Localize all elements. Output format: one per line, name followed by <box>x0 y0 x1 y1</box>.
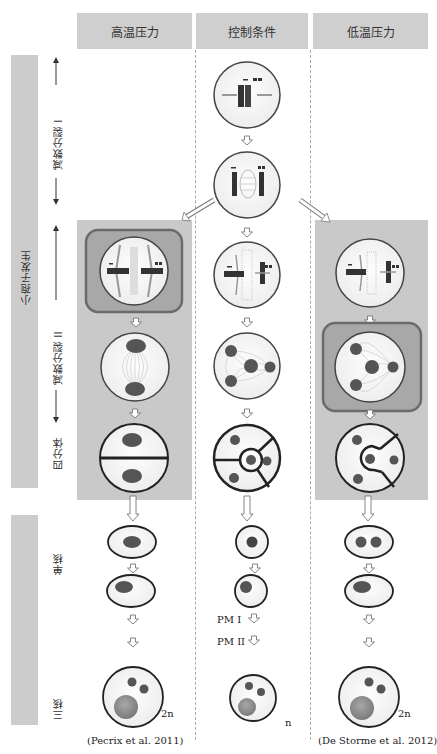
arrow-icon <box>130 409 141 418</box>
arrow-icon <box>249 636 260 645</box>
heat-ploidy-label: 2n <box>161 708 174 719</box>
control-ploidy-label: n <box>285 717 291 728</box>
cold-citation: (De Storme et al. 2012) <box>318 735 437 746</box>
cold-metaphase-2-cell <box>336 239 404 307</box>
arrow-icon <box>128 564 139 573</box>
arrow-icon <box>242 318 253 327</box>
arrow-icon <box>128 615 139 624</box>
cold-ploidy-label: 2n <box>398 708 411 719</box>
heat-citation: (Pecrix et al. 2011) <box>87 735 183 746</box>
arrow-icon <box>364 564 375 573</box>
heat-dyad-cell <box>100 424 168 492</box>
cold-binucleate-cell <box>345 526 393 558</box>
control-metaphase-2-cell <box>214 242 280 308</box>
arrow-icon <box>128 638 139 647</box>
arrow-icon <box>364 615 375 624</box>
arrow-control-to-heat <box>182 200 214 221</box>
control-trinucleate-cell <box>230 675 276 721</box>
control-telophase-1-cell <box>214 152 280 218</box>
arrow-icon <box>241 496 253 521</box>
control-uninucleate-cell <box>236 526 268 558</box>
heat-telophase-2-parallel-spindle-cell <box>101 333 169 401</box>
arrow-icon <box>364 638 375 647</box>
cold-triad-cell <box>336 424 404 492</box>
control-telophase-2-cell <box>214 333 280 399</box>
heat-uninucleate-cell <box>108 526 156 558</box>
heat-metaphase-2-highlight <box>86 230 182 312</box>
pm2-label: PM II <box>217 636 245 647</box>
control-vacuolate-cell <box>235 575 267 607</box>
cold-vacuolate-cell <box>345 575 393 607</box>
pm1-label: PM I <box>217 614 241 625</box>
heat-vacuolate-cell <box>107 575 155 607</box>
arrow-icon <box>249 614 260 623</box>
cold-telophase-2-highlight <box>323 323 421 411</box>
heat-trinucleate-cell <box>103 667 163 727</box>
arrow-icon <box>242 409 253 418</box>
arrow-icon <box>250 564 261 573</box>
arrow-icon <box>362 496 374 521</box>
cold-trinucleate-cell <box>339 667 399 727</box>
arrow-control-to-cold <box>300 200 330 222</box>
control-tetrad-cell <box>214 425 280 491</box>
arrow-icon <box>242 136 253 145</box>
arrow-icon <box>127 496 139 521</box>
arrow-icon <box>131 318 142 327</box>
control-metaphase-1-cell <box>214 62 280 128</box>
arrow-icon <box>242 228 253 237</box>
